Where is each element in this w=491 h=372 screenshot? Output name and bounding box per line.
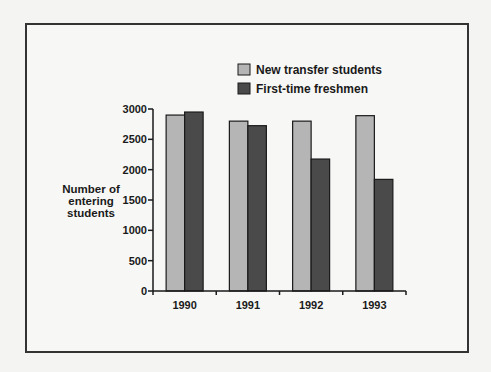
bar bbox=[311, 159, 330, 291]
x-axis: 1990199119921993 bbox=[153, 291, 406, 311]
x-tick-label: 1991 bbox=[236, 299, 260, 311]
bar bbox=[166, 115, 185, 291]
y-axis-label-line: entering bbox=[68, 195, 113, 207]
y-axis-label: Number ofenteringstudents bbox=[62, 183, 120, 219]
y-tick-label: 1000 bbox=[123, 224, 147, 236]
y-tick-label: 2500 bbox=[123, 133, 147, 145]
y-tick-label: 2000 bbox=[123, 164, 147, 176]
legend-label: First-time freshmen bbox=[256, 82, 368, 96]
y-tick-label: 1500 bbox=[123, 194, 147, 206]
y-axis: 050010001500200025003000 bbox=[123, 103, 153, 297]
y-axis-label-line: students bbox=[67, 207, 115, 219]
legend-swatch bbox=[238, 64, 250, 75]
x-tick-label: 1992 bbox=[299, 299, 323, 311]
bar bbox=[356, 116, 375, 291]
bar bbox=[248, 126, 267, 291]
bar-chart: New transfer studentsFirst-time freshmen… bbox=[0, 0, 491, 372]
bar bbox=[185, 112, 204, 291]
bar bbox=[374, 179, 393, 291]
legend-label: New transfer students bbox=[256, 63, 382, 77]
bar bbox=[229, 121, 248, 291]
y-tick-label: 0 bbox=[141, 285, 147, 297]
bars bbox=[166, 112, 393, 291]
y-tick-label: 3000 bbox=[123, 103, 147, 115]
x-tick-label: 1990 bbox=[172, 299, 196, 311]
y-axis-label-line: Number of bbox=[62, 183, 120, 195]
legend: New transfer studentsFirst-time freshmen bbox=[238, 63, 382, 96]
y-tick-label: 500 bbox=[129, 255, 147, 267]
bar bbox=[293, 121, 312, 291]
legend-swatch bbox=[238, 83, 250, 94]
x-tick-label: 1993 bbox=[362, 299, 386, 311]
